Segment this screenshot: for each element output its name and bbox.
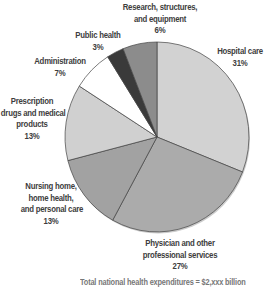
label-research: Research, structures, and equipment 6%: [119, 1, 201, 36]
label-administration: Administration 7%: [34, 55, 86, 78]
label-prescription-drugs: Prescription drugs and medical products …: [1, 95, 63, 141]
footnote-total-expenditures: Total national health expenditures = $2,…: [80, 277, 244, 287]
label-nursing-home: Nursing home, home health, and personal …: [21, 180, 82, 226]
label-physician-services: Physician and other professional service…: [141, 237, 218, 272]
label-hospital-care: Hospital care 31%: [215, 45, 264, 68]
label-public-health: Public health 3%: [73, 29, 122, 52]
